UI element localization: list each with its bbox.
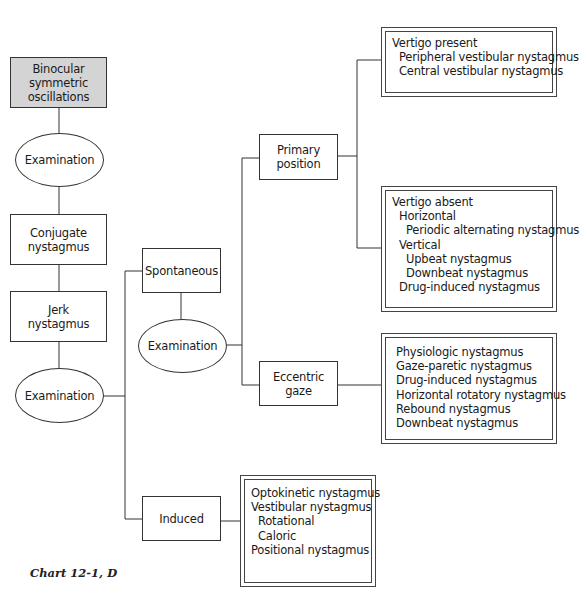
node-label: Examination [25,153,95,167]
list-content: Vertigo present Peripheral vestibular ny… [385,31,553,93]
list-content: Optokinetic nystagmus Vestibular nystagm… [244,479,372,583]
spontaneous-box: Spontaneous [142,248,221,293]
list-item: Vestibular nystagmus [251,500,365,514]
node-label: Conjugate nystagmus [24,226,94,254]
list-item: Downbeat nystagmus [396,416,546,430]
list-item: Horizontal rotatory nystagmus [396,388,546,402]
node-label: Examination [148,339,218,353]
node-label: Examination [25,389,95,403]
conjugate-nystagmus-box: Conjugate nystagmus [10,214,107,265]
vertigo-present-list-box: Vertigo present Peripheral vestibular ny… [381,27,557,97]
chart-caption: Chart 12-1, D [30,566,117,580]
list-item: Positional nystagmus [251,543,365,557]
vertigo-absent-list-box: Vertigo absent Horizontal Periodic alter… [381,186,557,312]
list-item: Central vestibular nystagmus [392,64,546,78]
node-label: Jerk nystagmus [24,303,94,331]
list-item: Drug-induced nystagmus [396,373,546,387]
list-item: Peripheral vestibular nystagmus [392,50,546,64]
list-item: Downbeat nystagmus [392,266,546,280]
jerk-nystagmus-box: Jerk nystagmus [10,291,107,342]
primary-position-box: Primary position [259,134,338,180]
eccentric-gaze-box: Eccentric gaze [259,361,338,406]
examination-oval-3: Examination [15,368,104,423]
list-content: Vertigo absent Horizontal Periodic alter… [385,190,553,308]
list-item: Rotational [251,514,365,528]
node-label: Primary position [274,143,324,171]
list-item: Vertical [392,238,546,252]
binocular-symmetric-oscillations-box: Binocular symmetric oscillations [10,57,107,108]
list-item: Rebound nystagmus [396,402,546,416]
node-label: Spontaneous [145,264,218,278]
list-item: Periodic alternating nystagmus [392,223,546,237]
list-item: Upbeat nystagmus [392,252,546,266]
list-item: Vertigo absent [392,195,546,209]
list-content: Physiologic nystagmus Gaze-paretic nysta… [385,337,553,440]
list-item: Physiologic nystagmus [396,345,546,359]
node-label: Induced [159,512,204,526]
eccentric-gaze-list-box: Physiologic nystagmus Gaze-paretic nysta… [381,333,557,444]
list-item: Gaze-paretic nystagmus [396,359,546,373]
list-item: Optokinetic nystagmus [251,486,365,500]
induced-list-box: Optokinetic nystagmus Vestibular nystagm… [240,475,376,587]
induced-box: Induced [142,496,221,541]
list-item: Caloric [251,529,365,543]
list-item: Vertigo present [392,36,546,50]
node-label: Eccentric gaze [269,370,329,398]
list-item: Horizontal [392,209,546,223]
list-item: Drug-induced nystagmus [392,280,546,294]
examination-oval-1: Examination [15,133,104,187]
node-label: Binocular symmetric oscillations [19,62,99,104]
examination-oval-2: Examination [138,319,227,373]
